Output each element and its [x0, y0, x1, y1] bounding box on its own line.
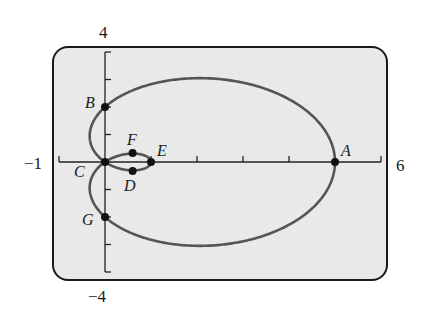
point-g — [101, 213, 109, 221]
point-label-f: F — [127, 132, 137, 148]
point-label-b: B — [85, 95, 95, 111]
y-min-label: −4 — [88, 288, 106, 305]
point-d — [129, 167, 137, 175]
point-label-e: E — [157, 143, 167, 159]
point-label-d: D — [124, 178, 136, 194]
x-min-label: −1 — [24, 155, 42, 172]
point-f — [129, 149, 137, 157]
point-e — [147, 158, 155, 166]
point-label-c: C — [74, 164, 85, 180]
plot-area — [0, 0, 427, 315]
point-c — [101, 158, 109, 166]
y-max-label: 4 — [99, 24, 108, 41]
x-max-label: 6 — [396, 157, 405, 174]
point-b — [101, 103, 109, 111]
point-label-a: A — [341, 143, 351, 159]
point-a — [331, 158, 339, 166]
point-label-g: G — [82, 212, 94, 228]
